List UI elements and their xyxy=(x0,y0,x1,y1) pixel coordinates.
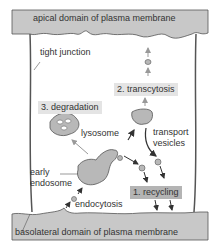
transport-vesicles-label-1: transport xyxy=(153,128,189,137)
arrow-recycling-down-1 xyxy=(155,200,157,210)
arrow-endosome-to-transcytosis xyxy=(128,130,134,140)
lysosome-label: lysosome xyxy=(81,129,119,138)
tight-junction-label: tight junction xyxy=(40,48,91,57)
arrow-endocytosis-2 xyxy=(78,188,82,194)
degradation-label: 3. degradation xyxy=(38,101,102,114)
endocytosis-label: endocytosis xyxy=(75,200,123,209)
cell-diagram xyxy=(0,0,220,249)
early-endosome-label-1: early xyxy=(30,168,50,177)
basolateral-domain-label: basolateral domain of plasma membrane xyxy=(15,228,178,237)
arrow-endocytosis-1 xyxy=(66,202,70,208)
arrow-recycling-down-2 xyxy=(170,200,172,210)
early-endosome-label-2: endosome xyxy=(30,179,72,188)
arrow-vesicle-down-1 xyxy=(144,172,147,182)
transport-vesicles-label-2: vesicles xyxy=(153,139,185,148)
lysosome-shape xyxy=(50,113,79,136)
apical-domain-label: apical domain of plasma membrane xyxy=(33,14,176,23)
arrow-endosome-to-vesicle xyxy=(124,156,138,164)
transcytosis-label: 2. transcytosis xyxy=(114,83,178,96)
arrow-endosome-to-lysosome xyxy=(72,140,88,154)
early-endosome-shape xyxy=(77,150,117,185)
recycling-label: 1. recycling xyxy=(130,186,182,199)
arrow-vesicle-down-2 xyxy=(160,166,164,178)
lateral-membrane-right xyxy=(194,34,196,212)
transcytosis-vesicle-shape xyxy=(132,109,153,124)
